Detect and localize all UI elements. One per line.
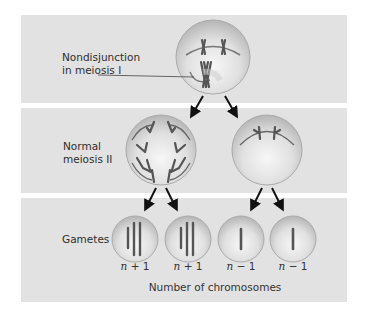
axis-caption: Number of chromosomes (149, 281, 282, 293)
gamete-count-label: n − 1 (227, 260, 256, 272)
gamete-cell (165, 216, 211, 262)
meiosis-two-cell-right (232, 115, 302, 185)
gamete-cell (112, 216, 158, 262)
meiosis-two-cell-left (126, 115, 196, 185)
gamete-count-label: n + 1 (174, 260, 203, 272)
label-gametes: Gametes (62, 233, 109, 246)
label-normal-meiosis-two: Normal meiosis II (63, 140, 112, 166)
label-line: in meiosis I (62, 64, 140, 77)
label-line: Nondisjunction (62, 51, 140, 64)
label-line: meiosis II (63, 153, 112, 166)
label-nondisjunction: Nondisjunction in meiosis I (62, 51, 140, 77)
arrow-icon (225, 96, 236, 115)
label-line: Normal (63, 140, 112, 153)
parent-cell (176, 20, 250, 94)
arrow-icon (192, 96, 203, 115)
gamete-cell (218, 216, 264, 262)
gamete-count-label: n + 1 (121, 260, 150, 272)
gamete-count-label: n − 1 (279, 260, 308, 272)
gamete-cell (270, 216, 316, 262)
arrow-icon (146, 188, 282, 208)
